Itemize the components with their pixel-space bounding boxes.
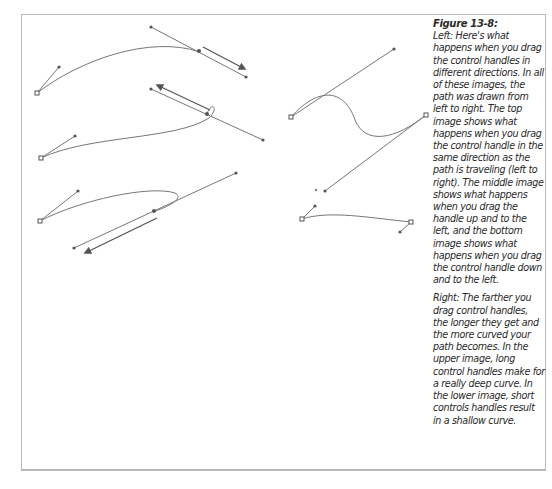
figure-caption: Figure 13-8: Left: Here's what happens w… — [433, 18, 545, 433]
right-lower-path — [300, 189, 413, 234]
figure-title: Figure 13-8: — [433, 18, 545, 30]
left-bottom-path — [38, 171, 238, 252]
left-top-path — [35, 25, 248, 95]
right-upper-path — [289, 47, 428, 192]
caption-left-paragraph: Left: Here's what happens when you drag … — [433, 30, 544, 285]
left-middle-path — [39, 86, 265, 160]
caption-right-paragraph: Right: The farther you drag control hand… — [433, 292, 545, 426]
